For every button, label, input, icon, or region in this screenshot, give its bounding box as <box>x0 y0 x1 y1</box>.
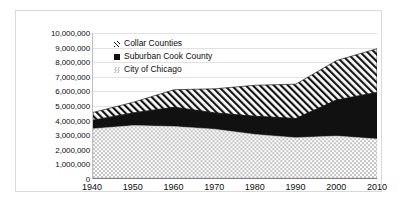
x-axis-tick-label: 1990 <box>286 182 306 192</box>
x-axis-tick-label: 1950 <box>123 182 143 192</box>
legend-label: Suburban Cook County <box>124 51 212 62</box>
x-axis-tick-label: 1940 <box>82 182 102 192</box>
legend-item-city-of-chicago: City of Chicago <box>114 64 212 75</box>
x-axis-labels: 19401950196019701980199020002010 <box>92 182 377 198</box>
y-axis-tick-label: 10,000,000 <box>51 29 90 38</box>
y-axis-tick-label: 4,000,000 <box>55 116 90 125</box>
y-axis-tick-label: 8,000,000 <box>55 58 90 67</box>
x-axis-tick-label: 2000 <box>326 182 346 192</box>
chart-figure: 01,000,0002,000,0003,000,0004,000,0005,0… <box>0 0 401 205</box>
legend-item-suburban-cook-county: Suburban Cook County <box>114 51 212 62</box>
x-axis-tick-label: 2010 <box>367 182 387 192</box>
y-axis-tick-label: 3,000,000 <box>55 131 90 140</box>
legend-item-collar-counties: Collar Counties <box>114 38 212 49</box>
x-axis-tick-label: 1980 <box>245 182 265 192</box>
legend-label: City of Chicago <box>124 64 182 75</box>
x-axis-tick-label: 1970 <box>204 182 224 192</box>
y-axis-tick-label: 2,000,000 <box>55 145 90 154</box>
chart-legend: Collar Counties Suburban Cook County Cit… <box>114 38 212 75</box>
legend-label: Collar Counties <box>124 38 182 49</box>
y-axis-tick-label: 6,000,000 <box>55 87 90 96</box>
suburban-black-swatch-icon <box>114 54 120 60</box>
y-axis-tick-label: 5,000,000 <box>55 102 90 111</box>
y-axis-tick-label: 1,000,000 <box>55 160 90 169</box>
x-axis-tick-label: 1960 <box>163 182 183 192</box>
chart-frame: 01,000,0002,000,0003,000,0004,000,0005,0… <box>15 10 382 192</box>
y-axis-labels: 01,000,0002,000,0003,000,0004,000,0005,0… <box>32 33 90 179</box>
y-axis-tick-label: 7,000,000 <box>55 72 90 81</box>
chicago-gray-swatch-icon <box>114 67 120 73</box>
collar-hatch-swatch-icon <box>114 41 120 47</box>
y-axis-tick-label: 9,000,000 <box>55 43 90 52</box>
